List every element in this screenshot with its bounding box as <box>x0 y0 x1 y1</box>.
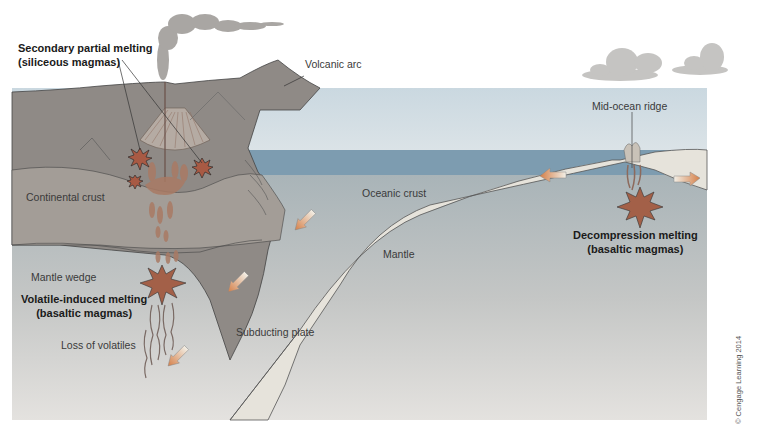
mantle-label: Mantle <box>383 248 415 261</box>
oceanic-crust-label: Oceanic crust <box>362 187 426 200</box>
mantle-wedge-label: Mantle wedge <box>31 271 96 284</box>
copyright-notice: © Cengage Learning 2014 <box>734 336 743 424</box>
clouds <box>582 43 728 81</box>
secondary-melting-label: Secondary partial melting (siliceous mag… <box>18 42 152 70</box>
loss-of-volatiles-label: Loss of volatiles <box>61 339 136 352</box>
mid-ocean-ridge-label: Mid-ocean ridge <box>592 100 667 113</box>
subducting-plate-label: Subducting plate <box>236 326 314 339</box>
volcanic-arc-label: Volcanic arc <box>305 58 362 71</box>
decompression-melting-label: Decompression melting (basaltic magmas) <box>573 229 698 257</box>
continental-crust-label: Continental crust <box>26 191 105 204</box>
volatile-melting-label: Volatile-induced melting (basaltic magma… <box>21 293 147 321</box>
